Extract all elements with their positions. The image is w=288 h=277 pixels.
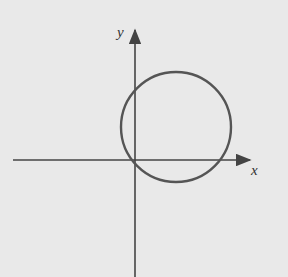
circle (121, 72, 231, 182)
coordinate-plane (0, 0, 288, 277)
x-axis-label: x (251, 162, 258, 179)
y-axis-label: y (117, 24, 124, 41)
